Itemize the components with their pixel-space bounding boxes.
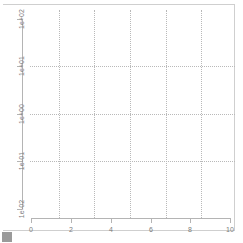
y-axis-tick-label: 1e+00 bbox=[18, 92, 26, 136]
gridline-vertical bbox=[201, 10, 202, 218]
x-axis-tick-label: 2 bbox=[60, 226, 82, 234]
x-axis-tick bbox=[190, 218, 191, 223]
x-axis-tick-label: 0 bbox=[20, 226, 42, 234]
x-axis-tick bbox=[71, 218, 72, 223]
y-axis-tick-label: 1e+02 bbox=[18, 0, 26, 41]
y-axis-tick-label: 1e-01 bbox=[18, 139, 26, 183]
figure-border-top bbox=[3, 4, 235, 5]
y-axis-tick-label: 1e+01 bbox=[18, 44, 26, 88]
gridline-vertical bbox=[59, 10, 60, 218]
x-axis-tick bbox=[151, 218, 152, 223]
y-axis-tick-label: 1e-02 bbox=[18, 187, 26, 231]
gridline-vertical bbox=[166, 10, 167, 218]
gridline-horizontal bbox=[30, 66, 235, 67]
x-axis-tick-label: 6 bbox=[140, 226, 162, 234]
x-axis-tick bbox=[31, 218, 32, 223]
resize-handle[interactable] bbox=[2, 232, 12, 242]
x-axis-tick bbox=[111, 218, 112, 223]
x-axis-tick-label: 4 bbox=[100, 226, 122, 234]
x-axis-tick bbox=[230, 218, 231, 223]
gridline-vertical bbox=[130, 10, 131, 218]
x-axis-tick-label: 10 bbox=[219, 226, 241, 234]
figure-root: 1e+021e+011e+001e-011e-02 0246810 bbox=[0, 0, 243, 243]
x-axis-line bbox=[31, 218, 230, 219]
x-axis-tick-label: 8 bbox=[179, 226, 201, 234]
plot-panel bbox=[30, 10, 235, 218]
gridline-horizontal bbox=[30, 114, 235, 115]
gridline-horizontal bbox=[30, 161, 235, 162]
gridline-vertical bbox=[94, 10, 95, 218]
